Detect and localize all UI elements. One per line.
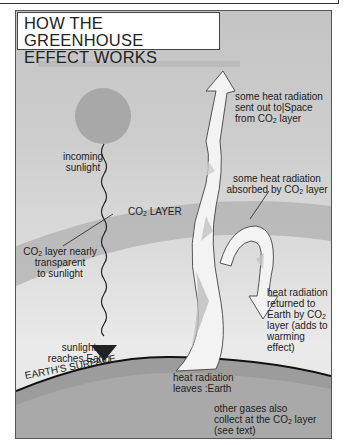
label-absorbed: some heat radiation absorbed by CO2 laye…	[222, 173, 332, 195]
label-co2-layer: CO2 LAYER	[128, 206, 182, 217]
title-line-1: HOW THE GREENHOUSE	[24, 15, 219, 49]
label-other-gases: other gases also collect at the CO2 laye…	[214, 403, 316, 436]
label-incoming-sunlight: incoming sunlight	[53, 151, 113, 173]
label-returned: heat radiation returned to Earth by CO2 …	[267, 287, 328, 353]
diagram-title: HOW THE GREENHOUSE EFFECT WORKS	[17, 12, 220, 50]
sun-icon	[75, 88, 131, 144]
label-leaves-earth: heat radiation leaves :Earth	[173, 372, 234, 394]
top-rule	[0, 0, 339, 4]
label-sent-to-space: some heat radiation sent out to|Space fr…	[235, 91, 323, 124]
title-line-2: EFFECT WORKS	[24, 49, 219, 66]
label-co2-transparent: CO2 layer nearly transparent to sunlight	[20, 246, 100, 279]
